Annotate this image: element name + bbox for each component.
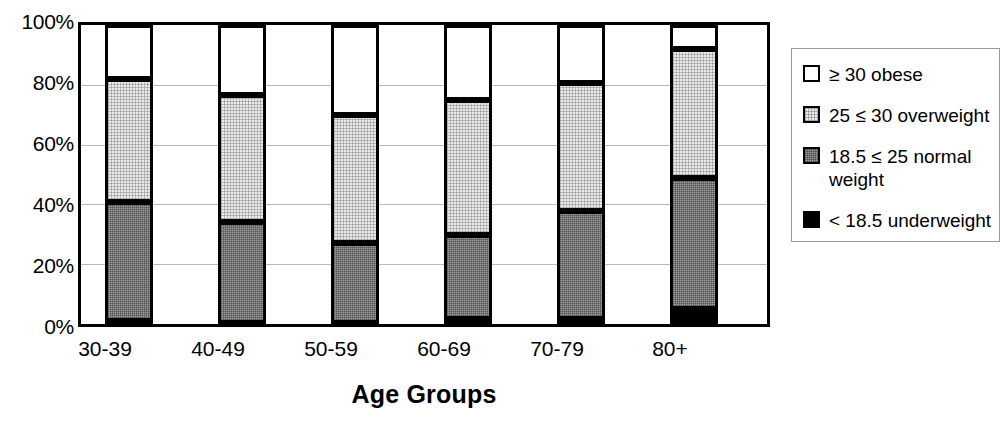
legend-swatch-overweight-icon	[803, 106, 820, 123]
x-tick-30-39: 30-39	[40, 336, 170, 362]
bar-40-49	[218, 25, 266, 324]
legend-swatch-normal-icon	[803, 147, 820, 164]
x-axis-tick-labels: 30-39 40-49 50-59 60-69 70-79 80+	[78, 336, 770, 368]
legend-swatch-underweight-icon	[803, 211, 820, 228]
segment-underweight-80plus	[670, 309, 718, 324]
bar-70-79	[557, 25, 605, 324]
gridline-40	[81, 204, 767, 205]
segment-obese-50-59	[331, 25, 379, 115]
bar-30-39	[105, 25, 153, 324]
bar-80plus	[670, 25, 718, 324]
bar-50-59	[331, 25, 379, 324]
stacked-bar-chart-figure: 100% 80% 60% 40% 20% 0% 30-39 40-49 50-5…	[0, 0, 1004, 422]
segment-normal-weight-40-49	[218, 222, 266, 322]
x-axis-title: Age Groups	[78, 379, 770, 409]
legend-item-underweight: < 18.5 underweight	[803, 209, 991, 232]
y-tick-20: 20%	[2, 255, 74, 276]
y-tick-0: 0%	[2, 316, 74, 337]
segment-obese-40-49	[218, 25, 266, 95]
segment-obese-80plus	[670, 25, 718, 49]
plot-area	[78, 22, 770, 327]
gridline-20	[81, 264, 767, 265]
legend-item-normal-weight: 18.5 ≤ 25 normal weight	[803, 145, 971, 191]
x-tick-60-69: 60-69	[379, 336, 509, 362]
segment-normal-weight-80plus	[670, 178, 718, 310]
segment-overweight-40-49	[218, 95, 266, 222]
segment-overweight-80plus	[670, 49, 718, 178]
segment-overweight-60-69	[444, 100, 492, 235]
segment-overweight-70-79	[557, 83, 605, 211]
segment-overweight-50-59	[331, 115, 379, 244]
legend-label-overweight: 25 ≤ 30 overweight	[829, 104, 989, 127]
segment-normal-weight-70-79	[557, 211, 605, 319]
y-tick-40: 40%	[2, 194, 74, 215]
gridline-60	[81, 145, 767, 146]
segment-overweight-30-39	[105, 79, 153, 202]
plot-inner	[81, 25, 767, 324]
segment-normal-weight-30-39	[105, 202, 153, 321]
segment-normal-weight-60-69	[444, 235, 492, 319]
bar-60-69	[444, 25, 492, 324]
x-tick-50-59: 50-59	[266, 336, 396, 362]
legend-item-overweight: 25 ≤ 30 overweight	[803, 104, 989, 127]
x-tick-80plus: 80+	[605, 336, 735, 362]
x-tick-70-79: 70-79	[492, 336, 622, 362]
y-tick-60: 60%	[2, 133, 74, 154]
legend: ≥ 30 obese 25 ≤ 30 overweight 18.5 ≤ 25 …	[791, 48, 1000, 242]
segment-obese-60-69	[444, 25, 492, 100]
legend-label-normal-weight: 18.5 ≤ 25 normal weight	[829, 145, 971, 191]
legend-item-obese: ≥ 30 obese	[803, 63, 923, 86]
y-tick-80: 80%	[2, 72, 74, 93]
segment-obese-70-79	[557, 25, 605, 83]
y-tick-100: 100%	[2, 11, 74, 32]
legend-label-underweight: < 18.5 underweight	[829, 209, 991, 232]
gridline-80	[81, 85, 767, 86]
x-tick-40-49: 40-49	[153, 336, 283, 362]
legend-swatch-obese-icon	[803, 65, 820, 82]
segment-obese-30-39	[105, 25, 153, 79]
legend-label-obese: ≥ 30 obese	[829, 63, 923, 86]
segment-normal-weight-50-59	[331, 243, 379, 322]
